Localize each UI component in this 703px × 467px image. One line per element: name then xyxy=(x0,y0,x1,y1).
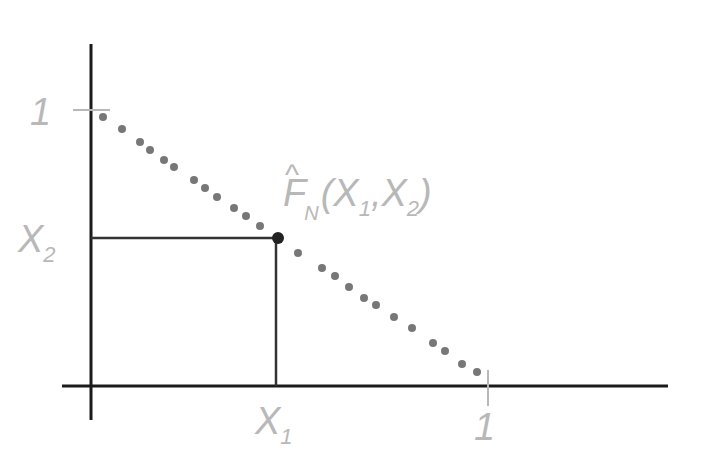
close-paren: ) xyxy=(419,172,432,214)
dot xyxy=(213,193,221,201)
f-hat-group: ^F xyxy=(283,174,306,212)
function-label: ^F N(X1,X2) xyxy=(283,174,432,212)
dot xyxy=(360,294,368,302)
comma-text: , xyxy=(371,172,382,214)
dot xyxy=(390,313,398,321)
arg2-sub-text: 2 xyxy=(407,196,419,221)
dot xyxy=(146,146,154,154)
hat-icon: ^ xyxy=(285,160,299,190)
dot xyxy=(318,264,326,272)
dot xyxy=(170,163,178,171)
open-paren: ( xyxy=(321,172,334,214)
x1-main-text: X xyxy=(255,400,280,442)
dot xyxy=(331,272,339,280)
x1-sub-text: 1 xyxy=(280,424,292,449)
dot xyxy=(136,138,144,146)
dot xyxy=(256,222,264,230)
f-sub-text: N xyxy=(304,202,318,224)
x-label-one: 1 xyxy=(474,408,495,446)
y-label-one-text: 1 xyxy=(30,91,51,133)
y-label-one: 1 xyxy=(30,93,51,131)
dot xyxy=(118,125,126,133)
x-label-x1: X1 xyxy=(255,402,293,440)
x2-sub-text: 2 xyxy=(43,242,55,267)
arg2-text: X xyxy=(382,172,407,214)
x-label-one-text: 1 xyxy=(474,406,495,448)
x2-main-text: X xyxy=(18,218,43,260)
arg1-text: X xyxy=(333,172,358,214)
dot xyxy=(372,301,380,309)
dot xyxy=(99,113,107,121)
dot xyxy=(429,339,437,347)
dot xyxy=(473,368,481,376)
y-label-x2: X2 xyxy=(18,220,56,258)
dot xyxy=(160,156,168,164)
dot xyxy=(230,204,238,212)
dot xyxy=(190,176,198,184)
dot xyxy=(408,324,416,332)
dot xyxy=(441,347,449,355)
dotted-diagonal xyxy=(99,113,481,376)
dot xyxy=(345,283,353,291)
dot xyxy=(242,212,250,220)
dot xyxy=(201,184,209,192)
dot xyxy=(458,360,466,368)
dot xyxy=(294,249,302,257)
empirical-cdf-diagram: 1 X2 X1 1 ^F N(X1,X2) xyxy=(0,0,703,467)
arg1-sub-text: 1 xyxy=(359,196,371,221)
diagram-canvas xyxy=(0,0,703,467)
point-marker xyxy=(272,232,284,244)
